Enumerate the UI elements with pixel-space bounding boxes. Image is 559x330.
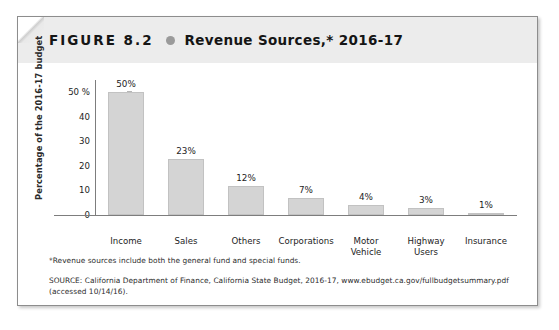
bar <box>228 186 264 215</box>
y-axis-tick-labels: 01020304050 % <box>54 86 90 215</box>
x-axis-label: Income <box>94 236 158 247</box>
x-axis-label: Corporations <box>274 236 338 247</box>
bar-value-label: 1% <box>456 200 516 210</box>
x-axis-label: Insurance <box>454 236 518 247</box>
bar-slot: 7% <box>276 80 336 215</box>
y-tick-label: 20 <box>54 161 90 171</box>
figure-box: FIGURE 8.2 Revenue Sources,* 2016-17 Per… <box>17 16 538 306</box>
footnote-source-line2: (accessed 10/14/16). <box>49 287 128 296</box>
y-tick-label: 50 % <box>54 87 90 97</box>
y-axis-title: Percentage of the 2016-17 budget <box>34 50 44 200</box>
footnote-note: *Revenue sources include both the genera… <box>49 256 509 265</box>
bar <box>348 205 384 215</box>
footnotes: *Revenue sources include both the genera… <box>49 256 509 297</box>
x-axis-label: MotorVehicle <box>334 236 398 258</box>
bar-value-label: 7% <box>276 185 336 195</box>
x-axis-label: Others <box>214 236 278 247</box>
bar-slot: 23% <box>156 80 216 215</box>
figure-title: Revenue Sources,* 2016-17 <box>185 32 404 48</box>
bar-value-label: 23% <box>156 146 216 156</box>
footnote-source-line1: SOURCE: California Department of Finance… <box>49 276 509 285</box>
y-tick-label: 30 <box>54 136 90 146</box>
bar-slot: 1% <box>456 80 516 215</box>
bar-slot: 4% <box>336 80 396 215</box>
dot-separator-icon <box>166 36 175 45</box>
bar <box>468 213 504 215</box>
bar-slot: 50% <box>96 80 156 215</box>
figure-number-label: FIGURE 8.2 <box>49 32 154 48</box>
y-tick-label: 40 <box>54 112 90 122</box>
x-axis-label: HighwayUsers <box>394 236 458 258</box>
bar-value-label: 50% <box>96 79 156 89</box>
y-tick-label: 10 <box>54 185 90 195</box>
footnote-source: SOURCE: California Department of Finance… <box>49 276 509 297</box>
bar <box>288 198 324 215</box>
bar-slot: 3% <box>396 80 456 215</box>
bar-series: 50%23%12%7%4%3%1% <box>96 80 516 215</box>
bar-value-label: 4% <box>336 192 396 202</box>
bar-value-label: 12% <box>216 173 276 183</box>
x-axis-line <box>54 215 517 216</box>
bar <box>108 92 144 215</box>
bar <box>168 159 204 215</box>
bar-chart: Percentage of the 2016-17 budget 0102030… <box>18 63 539 248</box>
x-axis-label: Sales <box>154 236 218 247</box>
bar <box>408 208 444 215</box>
bar-value-label: 3% <box>396 195 456 205</box>
figure-header-band: FIGURE 8.2 Revenue Sources,* 2016-17 <box>18 17 537 63</box>
bar-slot: 12% <box>216 80 276 215</box>
